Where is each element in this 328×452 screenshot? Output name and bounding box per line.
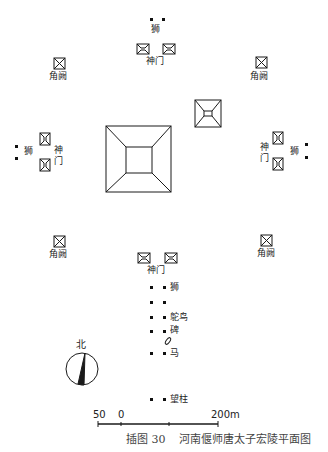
south-gate-left bbox=[138, 253, 150, 263]
compass-north-label: 北 bbox=[76, 340, 86, 349]
scale-label-50: 50 bbox=[93, 410, 106, 419]
lion-statue bbox=[305, 143, 308, 146]
statue-pair-horse bbox=[163, 352, 166, 355]
statue-pair-ostrich bbox=[150, 316, 153, 319]
lion-statue bbox=[15, 157, 18, 160]
figure-caption: 插图 30 河南偃师唐太子宏陵平面图 bbox=[126, 430, 311, 446]
label-road-lion: 狮 bbox=[170, 283, 179, 292]
label-corner-tower-nw: 角阙 bbox=[49, 72, 67, 81]
label-corner-tower-se: 角阙 bbox=[257, 249, 275, 258]
lion-statue bbox=[305, 156, 308, 159]
label-west-gate-1: 神 bbox=[53, 145, 63, 155]
lion-statue bbox=[162, 18, 165, 21]
label-corner-tower-ne: 角阙 bbox=[250, 72, 268, 81]
label-corner-tower-sw: 角阙 bbox=[49, 250, 67, 259]
east-gate-bottom bbox=[273, 158, 283, 170]
statue-pair-stele bbox=[163, 330, 166, 333]
lion-statue bbox=[150, 18, 153, 21]
tomb-mound bbox=[106, 126, 171, 192]
label-road-pillar: 望柱 bbox=[170, 395, 188, 404]
corner-tower-sw bbox=[54, 236, 65, 247]
scale-label-200m: 200m bbox=[211, 410, 240, 419]
label-road-horse: 马 bbox=[170, 349, 179, 358]
north-gate-right bbox=[163, 44, 175, 54]
caption-title: 河南偃师唐太子宏陵平面图 bbox=[179, 433, 311, 446]
label-north-lion: 狮 bbox=[151, 25, 160, 34]
corner-tower-se bbox=[261, 235, 272, 246]
label-road-stele: 碑 bbox=[170, 326, 179, 335]
label-west-gate-2: 门 bbox=[53, 156, 63, 166]
lion-statue bbox=[15, 145, 18, 148]
north-gate-left bbox=[137, 44, 149, 54]
south-gate-right bbox=[165, 253, 177, 263]
statue-pair-stele bbox=[150, 330, 153, 333]
pillar-pair bbox=[150, 398, 153, 401]
label-south-gate: 神门 bbox=[147, 266, 165, 275]
caption-number: 插图 30 bbox=[126, 433, 166, 446]
label-east-lion: 狮 bbox=[290, 147, 299, 156]
label-road-ostrich: 鸵鸟 bbox=[170, 313, 188, 322]
west-gate-bottom bbox=[40, 159, 50, 171]
corner-tower-ne bbox=[256, 57, 267, 68]
east-gate-top bbox=[273, 132, 283, 144]
statue-pair bbox=[163, 301, 166, 304]
label-east-gate-1: 神 bbox=[259, 142, 269, 152]
statue-pair-ostrich bbox=[163, 316, 166, 319]
label-east-gate-2: 门 bbox=[259, 153, 269, 163]
scale-bar bbox=[98, 421, 218, 427]
west-gate-top bbox=[40, 133, 50, 145]
scale-label-0: 0 bbox=[118, 410, 124, 419]
pillar-pair bbox=[163, 398, 166, 401]
statue-pair bbox=[150, 301, 153, 304]
label-north-gate: 神门 bbox=[146, 57, 164, 66]
statue-pair-lion bbox=[150, 286, 153, 289]
plan-drawing bbox=[0, 0, 328, 452]
small-mound bbox=[195, 100, 221, 127]
corner-tower-nw bbox=[54, 58, 65, 69]
stele-shape bbox=[164, 337, 171, 345]
label-west-lion: 狮 bbox=[24, 147, 33, 156]
statue-pair-lion bbox=[163, 286, 166, 289]
compass-needle bbox=[78, 353, 85, 385]
statue-pair-horse bbox=[150, 352, 153, 355]
